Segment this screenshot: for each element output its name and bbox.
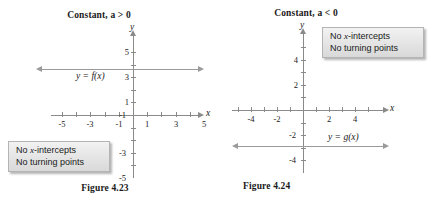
figure-caption-right: Figure 4.24 — [243, 181, 290, 191]
x-tick-left — [76, 112, 77, 117]
x-tick-label-right: -2 — [267, 114, 287, 124]
x-tick-label-left: 1 — [137, 119, 157, 129]
y-tick-label-right: 4 — [282, 55, 298, 65]
panel-left: Constant, a > 0 y x -5 -3 -1 — [0, 0, 216, 203]
x-tick-right — [251, 107, 252, 112]
panel-right: Constant, a < 0 y x -4 -2 — [216, 0, 433, 203]
y-tick-left — [131, 153, 136, 154]
callout-left-line-1-post: -intercepts — [34, 145, 76, 155]
function-line-g — [238, 146, 384, 147]
y-tick-left — [131, 77, 136, 78]
x-tick-label-right: -4 — [241, 114, 261, 124]
callout-left: No x-intercepts No turning points — [8, 141, 110, 172]
y-tick-label-left: 1 — [113, 97, 129, 107]
y-tick-left — [131, 52, 136, 53]
callout-right-line-2: No turning points — [330, 43, 417, 55]
y-tick-right — [301, 160, 306, 161]
x-axis-label-left: x — [206, 108, 210, 118]
x-tick-right — [368, 107, 369, 112]
callout-right-line-1-post: -intercepts — [348, 31, 390, 41]
y-tick-right — [301, 85, 306, 86]
x-tick-label-right: 4 — [345, 114, 365, 124]
y-tick-left — [131, 165, 136, 166]
x-tick-right — [277, 107, 278, 112]
y-axis-label-right: y — [300, 20, 304, 30]
function-f-arrow-right-icon — [198, 66, 204, 72]
x-tick-left — [190, 112, 191, 117]
x-tick-right — [238, 107, 239, 112]
y-tick-label-left: -5 — [110, 173, 126, 183]
figure-caption-left: Figure 4.23 — [81, 183, 128, 193]
function-g-arrow-right-icon — [383, 143, 389, 149]
y-tick-left — [131, 128, 136, 129]
y-tick-left — [131, 102, 136, 103]
x-tick-right — [355, 107, 356, 112]
y-axis-left — [133, 36, 134, 178]
x-axis-arrow-right-icon — [383, 107, 389, 113]
x-tick-label-left: -1 — [109, 119, 129, 129]
function-f-arrow-left-icon — [36, 66, 42, 72]
y-tick-right — [301, 47, 306, 48]
function-label-f: y = f(x) — [76, 71, 105, 81]
y-tick-label-left: 5 — [113, 47, 129, 57]
y-tick-left — [131, 90, 136, 91]
y-tick-right — [301, 72, 306, 73]
x-tick-left — [176, 112, 177, 117]
y-tick-label-left: -1 — [110, 110, 126, 120]
function-line-f — [42, 69, 199, 70]
x-tick-right — [290, 107, 291, 112]
y-tick-label-left: 3 — [113, 72, 129, 82]
x-axis-right — [232, 110, 384, 111]
x-tick-right — [316, 107, 317, 112]
x-axis-label-right: x — [390, 103, 394, 113]
callout-left-line-1-pre: No — [16, 145, 30, 155]
x-tick-left — [161, 112, 162, 117]
y-tick-label-right: -2 — [280, 130, 296, 140]
y-tick-right — [301, 135, 306, 136]
x-tick-right — [342, 107, 343, 112]
x-tick-left — [62, 112, 63, 117]
y-tick-left — [131, 65, 136, 66]
x-tick-label-left: 5 — [194, 119, 214, 129]
y-tick-left — [131, 140, 136, 141]
y-tick-label-right: -4 — [280, 155, 296, 165]
x-tick-label-left: -3 — [80, 119, 100, 129]
y-axis-label-left: y — [130, 22, 134, 32]
x-tick-left — [147, 112, 148, 117]
callout-right-line-1: No x-intercepts — [330, 31, 417, 43]
x-tick-label-left: -5 — [52, 119, 72, 129]
y-tick-right — [301, 148, 306, 149]
x-tick-left — [105, 112, 106, 117]
function-g-arrow-left-icon — [232, 143, 238, 149]
x-tick-label-left: 3 — [166, 119, 186, 129]
callout-left-line-1: No x-intercepts — [16, 145, 103, 157]
y-tick-label-left: -3 — [110, 148, 126, 158]
x-tick-right — [264, 107, 265, 112]
function-label-g: y = g(x) — [328, 132, 359, 142]
x-axis-arrow-right-icon — [198, 112, 204, 118]
y-tick-right — [301, 60, 306, 61]
y-tick-right — [301, 97, 306, 98]
y-tick-right — [301, 123, 306, 124]
callout-left-line-2: No turning points — [16, 157, 103, 169]
callout-right: No x-intercepts No turning points — [322, 27, 424, 58]
x-tick-label-right: 2 — [319, 114, 339, 124]
y-tick-label-right: 2 — [282, 80, 298, 90]
y-axis-right — [303, 34, 304, 173]
callout-right-line-1-pre: No — [330, 31, 344, 41]
figure-pair-canvas: Constant, a > 0 y x -5 -3 -1 — [0, 0, 433, 203]
x-tick-right — [329, 107, 330, 112]
x-tick-left — [90, 112, 91, 117]
